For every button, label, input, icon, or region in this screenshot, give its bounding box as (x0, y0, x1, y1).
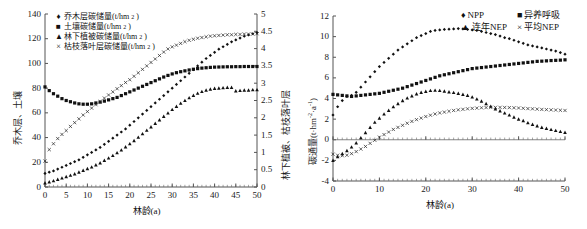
legend-item: ♦乔木层碳储量(t/hm2) (55, 12, 155, 22)
y-tick-label: 40 (15, 133, 41, 142)
legend-label: 土壤碳储量(t/hm (64, 22, 121, 32)
legend-marker-square-icon: ■ (55, 23, 62, 31)
chart-panel-carbon-flux: 碳通量(t·hm-2·a-1) 林龄(a) ♦NPP■异养呼吸▲连年NEP×平均… (293, 0, 587, 229)
legend-label-superscript: 2 (131, 12, 134, 22)
legend-item: ♦NPP (461, 10, 507, 21)
data-series (43, 86, 259, 185)
secondary-y-tick-label: 3.5 (261, 61, 285, 70)
x-tick-label: 50 (245, 191, 269, 200)
legend-marker-square-icon: ■ (517, 10, 522, 21)
legend-label-superscript: 2 (123, 22, 126, 32)
figure-container: 乔木层、土壤 林下植被、枯枝落叶层 林龄(a) ♦乔木层碳储量(t/hm2)■土… (0, 0, 587, 229)
x-tick-label: 10 (367, 185, 391, 194)
right-chart-x-axis-label: 林龄(a) (293, 200, 587, 210)
legend-label: 平均NEP (524, 22, 559, 33)
x-tick-label: 0 (321, 185, 345, 194)
y-tick-label: 2 (303, 115, 329, 124)
legend-label: NPP (468, 10, 485, 21)
data-series (331, 27, 566, 117)
secondary-y-tick-label: 5 (261, 10, 285, 19)
x-tick-label: 40 (507, 185, 531, 194)
legend-label-tail: ) (152, 42, 155, 52)
secondary-y-tick-label: 4 (261, 44, 285, 53)
data-series (331, 106, 566, 158)
legend-label: 乔木层碳储量(t/hm (64, 12, 129, 22)
secondary-y-tick-label: 1.5 (261, 131, 285, 140)
y-tick-label: 8 (303, 53, 329, 62)
legend-marker-cross-icon: × (55, 43, 62, 51)
legend-item: ×平均NEP (517, 22, 560, 33)
secondary-y-tick-label: 3 (261, 79, 285, 88)
x-tick-label: 20 (414, 185, 438, 194)
chart-panel-carbon-storage: 乔木层、土壤 林下植被、枯枝落叶层 林龄(a) ♦乔木层碳储量(t/hm2)■土… (0, 0, 293, 229)
x-tick-label: 30 (460, 185, 484, 194)
legend-label-tail: ) (136, 12, 139, 22)
y-tick-label: 12 (303, 12, 329, 21)
legend-marker-diamond-icon: ♦ (461, 10, 466, 21)
secondary-y-tick-label: 2.5 (261, 96, 285, 105)
x-tick-label: 50 (553, 185, 577, 194)
y-tick-label: 140 (15, 10, 41, 19)
y-tick-label: 4 (303, 94, 329, 103)
legend-label-tail: ) (144, 32, 147, 42)
legend-label: 林下植被碳储量(t/hm (64, 32, 137, 42)
legend-item: ▲林下植被碳储量(t/hm2) (55, 32, 155, 42)
secondary-y-tick-label: 2 (261, 113, 285, 122)
y-tick-label: 60 (15, 108, 41, 117)
legend-label: 异养呼吸 (524, 10, 560, 21)
legend-label-tail: ) (128, 22, 131, 32)
data-series (43, 65, 258, 106)
legend-item: ▲连年NEP (461, 22, 507, 33)
left-chart-x-axis-label: 林龄(a) (0, 206, 293, 216)
y-tick-label: 0 (303, 135, 329, 144)
legend-label: 连年NEP (472, 22, 507, 33)
legend-item: ■土壤碳储量(t/hm2) (55, 22, 155, 32)
data-series (331, 88, 567, 162)
secondary-y-tick-label: 1 (261, 148, 285, 157)
y-tick-label: 20 (15, 158, 41, 167)
y-tick-label: 80 (15, 84, 41, 93)
legend-item: ×枯枝落叶层碳储量(t/hm2) (55, 42, 155, 52)
secondary-y-tick-label: 4.5 (261, 27, 285, 36)
y-axis-label-mid: ·a (308, 106, 318, 113)
legend-marker-triangle-icon: ▲ (55, 33, 62, 41)
right-chart-legend: ♦NPP■异养呼吸▲连年NEP×平均NEP (461, 10, 560, 33)
y-tick-label: -2 (303, 156, 329, 165)
legend-item: ■异养呼吸 (517, 10, 560, 21)
legend-label: 枯枝落叶层碳储量(t/hm (64, 42, 145, 52)
legend-marker-cross-icon: × (517, 22, 522, 33)
right-chart-plot (293, 0, 587, 229)
legend-label-superscript: 2 (139, 32, 142, 42)
y-tick-label: 10 (303, 32, 329, 41)
legend-marker-diamond-icon: ♦ (55, 13, 62, 21)
y-tick-label: 120 (15, 34, 41, 43)
legend-marker-triangle-icon: ▲ (461, 22, 470, 33)
y-tick-label: 100 (15, 59, 41, 68)
y-tick-label: 6 (303, 73, 329, 82)
secondary-y-tick-label: 0.5 (261, 165, 285, 174)
left-chart-legend: ♦乔木层碳储量(t/hm2)■土壤碳储量(t/hm2)▲林下植被碳储量(t/hm… (55, 12, 155, 52)
legend-label-superscript: 2 (147, 42, 150, 52)
